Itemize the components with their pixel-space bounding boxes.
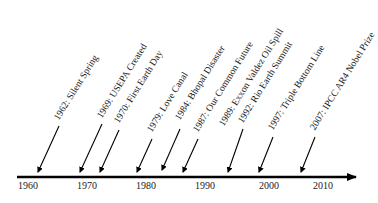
- arrow-1979-icon: [137, 139, 152, 172]
- tick-label-1970: 1970: [77, 180, 97, 191]
- tick-label-1960: 1960: [18, 180, 38, 191]
- arrow-1987-icon: [183, 139, 198, 172]
- timeline-diagram: 1960 1970 1980 1990 2000 2010 1962: Sile…: [0, 0, 378, 203]
- tick-label-2010: 2010: [313, 180, 333, 191]
- arrow-1997-icon: [259, 137, 273, 172]
- arrow-1969-icon: [80, 124, 102, 172]
- tick-label-1980: 1980: [136, 180, 156, 191]
- arrow-1962-icon: [38, 126, 59, 172]
- arrow-1970-icon: [100, 130, 119, 172]
- arrow-2007-icon: [301, 137, 315, 172]
- arrow-1984-icon: [162, 129, 180, 170]
- tick-label-1990: 1990: [195, 180, 215, 191]
- tick-label-2000: 2000: [259, 180, 279, 191]
- arrow-1992-icon: [228, 129, 243, 172]
